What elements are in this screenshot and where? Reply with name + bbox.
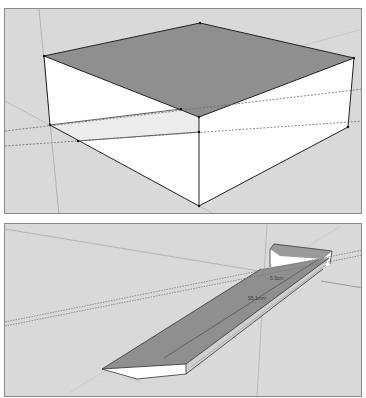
blue-axis <box>301 29 362 46</box>
box-model-drawing <box>5 9 362 214</box>
viewport-ramp-model[interactable]: 5.0cm 55.1mm <box>4 223 362 397</box>
ramp-model-drawing <box>5 224 362 397</box>
red-axis <box>5 229 271 273</box>
dimension-label-width: 5.0cm <box>270 275 284 281</box>
dimension-label-length: 55.1mm <box>248 295 266 301</box>
viewport-box-model[interactable] <box>4 8 362 214</box>
axis-right <box>321 281 362 288</box>
left-face-lower <box>78 132 199 206</box>
